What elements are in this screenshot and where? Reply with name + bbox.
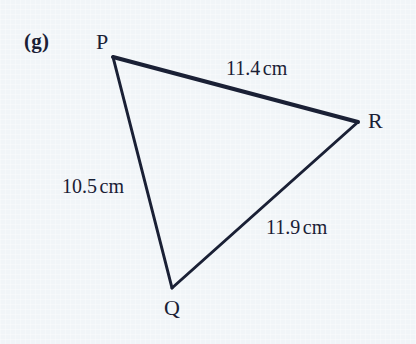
triangle-edge-qr xyxy=(172,122,358,288)
side-length-pr-unit: cm xyxy=(263,57,287,79)
triangle-edge-pq xyxy=(113,57,172,288)
triangle-diagram xyxy=(0,0,416,344)
side-length-pq-value: 10.5 xyxy=(62,175,97,197)
side-length-pq: 10.5cm xyxy=(62,176,124,196)
figure-canvas: (g) P R Q 11.4cm 10.5cm 11.9cm xyxy=(0,0,416,344)
side-length-qr-unit: cm xyxy=(303,216,327,238)
vertex-label-r: R xyxy=(368,110,383,132)
vertex-label-p: P xyxy=(96,31,108,53)
vertex-label-q: Q xyxy=(164,297,180,319)
part-label: (g) xyxy=(24,31,49,52)
side-length-qr: 11.9cm xyxy=(266,217,327,237)
side-length-pr-value: 11.4 xyxy=(226,57,260,79)
side-length-qr-value: 11.9 xyxy=(266,216,300,238)
side-length-pq-unit: cm xyxy=(100,175,124,197)
side-length-pr: 11.4cm xyxy=(226,58,287,78)
